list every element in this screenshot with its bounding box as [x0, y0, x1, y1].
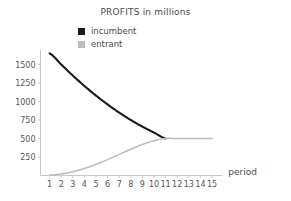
series-layer	[50, 53, 212, 175]
series-line-incumbent	[50, 53, 166, 138]
y-tick-label: 250	[20, 153, 35, 162]
tick-labels-layer: 2505007501000125015001234567891011121314…	[15, 61, 257, 189]
series-line-entrant	[50, 138, 212, 175]
x-tick-label: 13	[184, 180, 194, 189]
x-tick-label: 15	[207, 180, 217, 189]
x-tick-label: 12	[172, 180, 182, 189]
x-tick-label: 14	[195, 180, 205, 189]
x-tick-label: 7	[117, 180, 122, 189]
y-tick-label: 1000	[15, 98, 35, 107]
x-tick-label: 5	[93, 180, 98, 189]
profits-chart: PROFITS in millions incumbent entrant 25…	[0, 0, 291, 201]
x-tick-label: 2	[59, 180, 64, 189]
plot-area: 2505007501000125015001234567891011121314…	[0, 0, 291, 201]
x-tick-label: 10	[149, 180, 159, 189]
x-tick-label: 11	[161, 180, 171, 189]
y-tick-label: 500	[20, 135, 35, 144]
y-tick-label: 1500	[15, 61, 35, 70]
x-tick-label: 3	[70, 180, 75, 189]
y-tick-label: 750	[20, 116, 35, 125]
x-tick-label: 4	[82, 180, 87, 189]
y-tick-label: 1250	[15, 79, 35, 88]
x-tick-label: 6	[105, 180, 110, 189]
x-tick-label: 8	[128, 180, 133, 189]
x-tick-label: 9	[140, 180, 145, 189]
x-tick-label: 1	[47, 180, 52, 189]
x-axis-label: period	[228, 167, 257, 177]
